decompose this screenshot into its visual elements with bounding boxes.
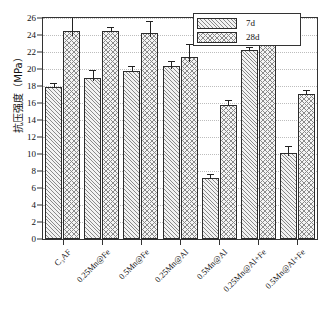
x-axis-tick-mark	[102, 240, 103, 245]
bar-d28	[141, 33, 158, 239]
compressive-strength-bar-chart: 抗压强度（MPa） 02468101214161820222426 C₃AF0.…	[0, 0, 329, 309]
y-axis-tick-label: 8	[32, 167, 37, 176]
bar-d7	[84, 78, 101, 239]
x-axis-tick-mark	[258, 240, 259, 245]
gridline	[43, 52, 317, 53]
bar-d7	[202, 178, 219, 239]
error-bar-cap	[246, 47, 253, 48]
error-bar	[228, 100, 229, 107]
x-axis-tick-label: 0.5Mn@Fe	[116, 247, 150, 281]
x-axis-tick-mark	[297, 240, 298, 245]
bar-d7	[163, 66, 180, 239]
x-axis-tick-label: C₃AF	[52, 247, 73, 268]
error-bar-cap	[168, 61, 175, 62]
x-axis-tick-label: 0.25Mn@Fe	[74, 247, 111, 284]
bar-d28	[259, 26, 276, 239]
error-bar	[171, 61, 172, 69]
x-axis-tick-label: 0.5Mn@Al+Fe	[264, 247, 308, 291]
error-bar-cap	[128, 66, 135, 67]
bar-d7	[280, 153, 297, 239]
legend-label-28d: 28d	[246, 33, 260, 42]
legend-item-7d: 7d	[197, 17, 297, 30]
y-axis-tick-label: 26	[27, 14, 36, 23]
x-axis-tick-label: 0.25Mn@Al	[153, 247, 190, 284]
error-bar-cap	[207, 174, 214, 175]
error-bar-cap	[107, 27, 114, 28]
bar-d28	[63, 31, 80, 239]
error-bar	[132, 66, 133, 73]
plot-area	[42, 17, 318, 240]
error-bar-cap	[303, 90, 310, 91]
error-bar-cap	[225, 100, 232, 101]
y-axis-tick-label: 16	[27, 99, 36, 108]
bar-d28	[181, 57, 198, 239]
y-axis: 02468101214161820222426	[0, 17, 42, 240]
error-bar-cap	[68, 17, 75, 18]
x-axis-tick-mark	[180, 240, 181, 245]
error-bar-cap	[186, 44, 193, 45]
bar-d28	[102, 31, 119, 239]
y-axis-tick-label: 6	[32, 184, 37, 193]
y-axis-tick-label: 4	[32, 201, 37, 210]
legend-swatch-7d-icon	[197, 18, 237, 29]
error-bar	[288, 146, 289, 155]
chart-legend: 7d 28d	[193, 13, 301, 46]
y-axis-tick-label: 18	[27, 82, 36, 91]
y-axis-tick-label: 14	[27, 116, 36, 125]
bar-d7	[241, 50, 258, 239]
error-bar-cap	[285, 146, 292, 147]
y-axis-tick-label: 10	[27, 150, 36, 159]
x-axis: C₃AF0.25Mn@Fe0.5Mn@Fe0.25Mn@Al0.5Mn@Al0.…	[0, 240, 329, 309]
y-axis-tick-label: 22	[27, 48, 36, 57]
legend-label-7d: 7d	[246, 19, 255, 28]
y-axis-tick-label: 2	[32, 218, 37, 227]
error-bar-cap	[50, 83, 57, 84]
x-axis-tick-label: 0.5Mn@Al	[195, 247, 229, 281]
legend-item-28d: 28d	[197, 31, 297, 44]
y-axis-tick-label: 12	[27, 133, 36, 142]
x-axis-tick-mark	[63, 240, 64, 245]
legend-swatch-28d-icon	[197, 32, 237, 43]
x-axis-tick-mark	[141, 240, 142, 245]
y-axis-tick-label: 20	[27, 65, 36, 74]
x-axis-tick-mark	[219, 240, 220, 245]
error-bar-cap	[89, 70, 96, 71]
error-bar	[93, 70, 94, 81]
bar-d28	[298, 94, 315, 239]
error-bar	[72, 17, 73, 35]
error-bar	[189, 44, 190, 61]
bar-d7	[123, 71, 140, 239]
bar-d7	[45, 87, 62, 239]
error-bar	[150, 21, 151, 37]
y-axis-tick-label: 24	[27, 31, 36, 40]
bar-d28	[220, 105, 237, 239]
error-bar-cap	[146, 21, 153, 22]
